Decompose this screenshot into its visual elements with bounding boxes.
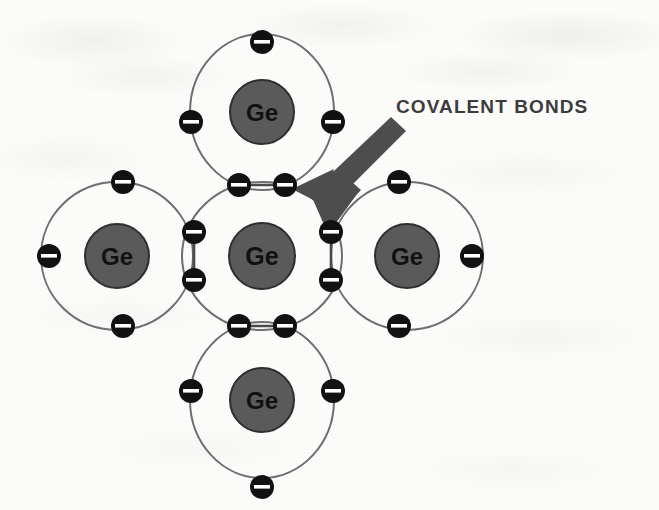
nucleus-label-center: Ge	[245, 242, 278, 270]
electron-center-bottom-left	[227, 314, 251, 338]
electron-bottom-west	[179, 379, 203, 403]
figure-page: Ge Ge Ge Ge Ge	[0, 0, 659, 510]
electron-top-bottom-right	[273, 173, 297, 197]
electron-left-north	[111, 170, 135, 194]
electron-right-south	[387, 314, 411, 338]
electron-center-top-left	[227, 173, 251, 197]
electron-left-south	[111, 314, 135, 338]
nucleus-right-atom: Ge	[375, 224, 439, 288]
covalent-bonds-label: COVALENT BONDS	[396, 96, 588, 118]
nucleus-label-top: Ge	[246, 99, 278, 126]
electron-top-east	[321, 110, 345, 134]
covalent-bonds-arrow-icon	[292, 117, 406, 234]
electron-bottom-top-right	[273, 314, 297, 338]
electron-center-left-top	[182, 220, 206, 244]
electron-top-north	[250, 30, 274, 54]
nucleus-bottom-atom: Ge	[230, 368, 294, 432]
nucleus-label-right: Ge	[391, 243, 423, 270]
electron-bottom-south	[250, 475, 274, 499]
electron-left-west	[37, 244, 61, 268]
electron-top-west	[179, 110, 203, 134]
electron-bottom-east	[321, 379, 345, 403]
covalent-bonds-diagram: Ge Ge Ge Ge Ge	[0, 0, 659, 510]
nucleus-top-atom: Ge	[230, 80, 294, 144]
nucleus-center-atom: Ge	[229, 223, 295, 289]
electron-right-left-bottom	[319, 268, 343, 292]
nucleus-label-left: Ge	[101, 243, 133, 270]
electron-right-east	[460, 244, 484, 268]
electron-center-right-top	[319, 220, 343, 244]
nucleus-label-bottom: Ge	[246, 387, 278, 414]
nucleus-left-atom: Ge	[85, 224, 149, 288]
electron-right-north	[387, 170, 411, 194]
electron-left-right-bottom	[182, 268, 206, 292]
